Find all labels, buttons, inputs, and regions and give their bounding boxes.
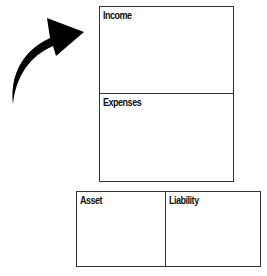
income-label: Income xyxy=(103,9,132,21)
expenses-label: Expenses xyxy=(103,96,141,108)
liability-label: Liability xyxy=(169,194,199,206)
liability-box: Liability xyxy=(165,191,261,267)
income-box: Income xyxy=(99,6,234,94)
curved-arrow-icon xyxy=(0,0,100,120)
asset-box: Asset xyxy=(76,191,167,267)
expenses-box: Expenses xyxy=(99,93,234,182)
asset-label: Asset xyxy=(80,194,102,206)
